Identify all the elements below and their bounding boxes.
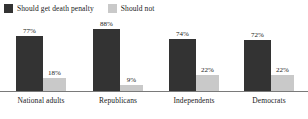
bar-wrap-primary-3: 72% (244, 20, 271, 91)
bar-value-label-primary-2: 74% (176, 30, 189, 38)
bar-secondary-democrats (271, 75, 294, 91)
bar-wrap-secondary-0: 18% (43, 20, 66, 91)
legend-label-primary: Should get death penalty (17, 4, 94, 13)
bar-group-democrats: 72% 22% (234, 20, 304, 91)
bar-value-label-secondary-0: 18% (48, 69, 61, 77)
category-label-democrats: Democrats (234, 96, 304, 106)
bar-group-republicans: 88% 9% (83, 20, 153, 91)
legend-item-should-get-death-penalty: Should get death penalty (4, 4, 94, 13)
bar-secondary-national-adults (43, 78, 66, 91)
category-axis: National adults Republicans Independents… (0, 96, 308, 110)
bar-primary-democrats (244, 40, 271, 91)
bar-value-label-primary-3: 72% (251, 31, 264, 39)
legend-label-secondary: Should not (121, 4, 155, 13)
axis-baseline (0, 91, 308, 92)
bar-wrap-primary-1: 88% (93, 20, 120, 91)
bar-primary-republicans (93, 29, 120, 91)
bar-value-label-primary-1: 88% (100, 20, 113, 28)
bar-value-label-primary-0: 77% (23, 27, 36, 35)
bar-value-label-secondary-3: 22% (276, 66, 289, 74)
bar-group-national-adults: 77% 18% (6, 20, 76, 91)
bar-primary-independents (169, 39, 196, 92)
bar-wrap-primary-2: 74% (169, 20, 196, 91)
bar-value-label-secondary-2: 22% (201, 66, 214, 74)
bar-group-independents: 74% 22% (159, 20, 229, 91)
legend-swatch-secondary (108, 4, 117, 13)
bar-chart: Should get death penalty Should not 77% … (0, 0, 308, 119)
bar-wrap-secondary-2: 22% (196, 20, 219, 91)
category-label-republicans: Republicans (83, 96, 153, 106)
legend-item-should-not: Should not (108, 4, 155, 13)
category-label-national-adults: National adults (6, 96, 76, 106)
legend-swatch-primary (4, 4, 13, 13)
plot-area: 77% 18% 88% 9% 74% 22% (0, 20, 308, 92)
bar-primary-national-adults (16, 36, 43, 91)
bar-wrap-primary-0: 77% (16, 20, 43, 91)
category-label-independents: Independents (159, 96, 229, 106)
chart-legend: Should get death penalty Should not (4, 2, 154, 14)
bar-wrap-secondary-1: 9% (120, 20, 143, 91)
bar-secondary-independents (196, 75, 219, 91)
bar-wrap-secondary-3: 22% (271, 20, 294, 91)
bar-value-label-secondary-1: 9% (127, 76, 137, 84)
